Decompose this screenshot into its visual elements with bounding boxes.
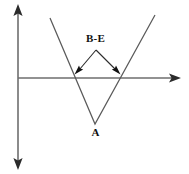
vertex-label: A xyxy=(0,127,189,138)
intercepts-label-text: B-E xyxy=(86,32,105,44)
figure-canvas: B-E A xyxy=(0,0,189,174)
diagram-svg xyxy=(0,0,189,174)
pointer-line-right xyxy=(96,50,116,70)
x-axis xyxy=(18,73,181,82)
intercept-pointers xyxy=(75,50,121,75)
intercepts-label: B-E xyxy=(0,33,189,44)
pointer-line-left xyxy=(80,50,97,70)
vertex-label-text: A xyxy=(91,126,99,138)
y-axis xyxy=(13,4,22,170)
